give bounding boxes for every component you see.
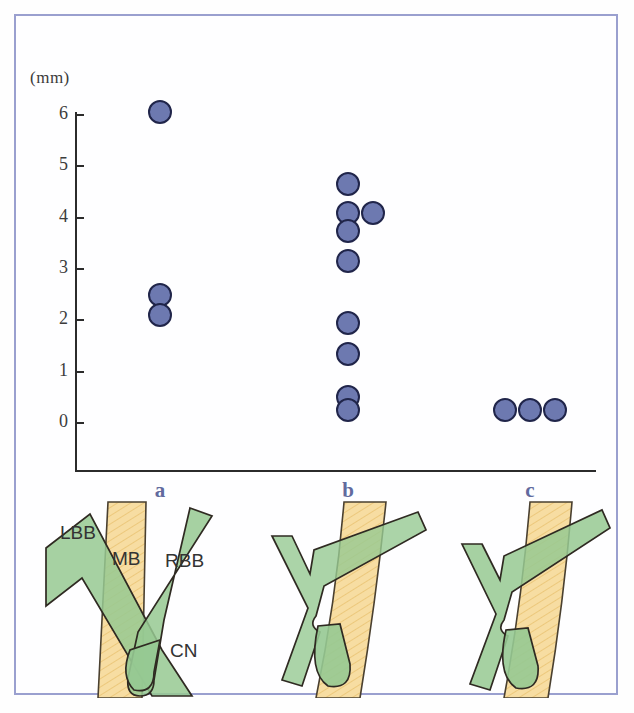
y-tick-label-4: 4 (34, 206, 68, 227)
y-axis-unit-label: (mm) (30, 68, 70, 88)
y-tick-label-2: 2 (34, 308, 68, 329)
data-point (336, 311, 360, 335)
y-tick-2 (75, 319, 84, 321)
y-tick-label-1: 1 (34, 360, 68, 381)
annotation-mb: MB (112, 548, 141, 570)
y-tick-6 (75, 114, 84, 116)
diagram-panel-c (438, 500, 628, 698)
y-tick-5 (75, 165, 84, 167)
data-point (148, 303, 172, 327)
data-point (336, 219, 360, 243)
diagram-panel-a: LBB MB RBB CN (42, 500, 232, 698)
figure-panel: (mm) 0123456 abc (0, 0, 634, 713)
anatomy-diagrams: LBB MB RBB CN (0, 500, 634, 700)
diagram-b-svg (258, 500, 448, 698)
data-point (336, 249, 360, 273)
diagram-c-svg (438, 500, 628, 698)
data-point (148, 100, 172, 124)
data-point (336, 398, 360, 422)
y-tick-1 (75, 371, 84, 373)
diagram-panel-b (258, 500, 448, 698)
data-point (336, 172, 360, 196)
annotation-cn: CN (170, 640, 197, 662)
data-point (543, 398, 567, 422)
y-tick-3 (75, 268, 84, 270)
y-tick-label-0: 0 (34, 411, 68, 432)
annotation-lbb: LBB (60, 522, 96, 544)
data-point (493, 398, 517, 422)
data-point (518, 398, 542, 422)
scatter-chart: (mm) 0123456 abc (0, 0, 634, 500)
y-tick-4 (75, 217, 84, 219)
y-tick-0 (75, 422, 84, 424)
data-point (336, 342, 360, 366)
data-point (361, 201, 385, 225)
y-tick-label-5: 5 (34, 154, 68, 175)
x-axis-line (75, 470, 596, 472)
y-tick-label-6: 6 (34, 103, 68, 124)
annotation-rbb: RBB (165, 550, 204, 572)
y-tick-label-3: 3 (34, 257, 68, 278)
